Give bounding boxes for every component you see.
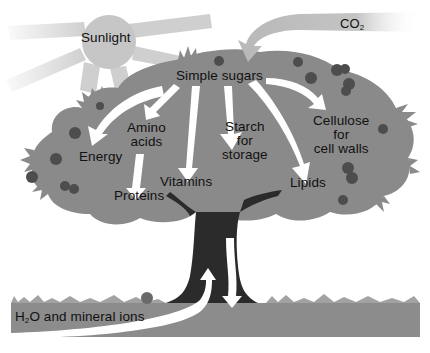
label-starch-for-storage: Starch for storage xyxy=(222,120,268,162)
label-lipids: Lipids xyxy=(290,176,326,190)
plant-nutrient-diagram: Sunlight CO2 Simple sugars Amino acids E… xyxy=(0,0,430,353)
cellulose-line-3: cell walls xyxy=(313,142,369,156)
label-co2: CO2 xyxy=(340,17,364,35)
co2-subscript: 2 xyxy=(360,23,365,32)
fallen-fruit xyxy=(141,292,153,304)
co2-text: CO xyxy=(340,16,360,31)
label-vitamins: Vitamins xyxy=(160,175,212,189)
water-rest: O and mineral ions xyxy=(29,309,144,324)
cellulose-line-2: for xyxy=(313,128,369,142)
label-proteins: Proteins xyxy=(114,189,164,203)
amino-line-2: acids xyxy=(127,135,166,149)
label-cellulose-for-cell-walls: Cellulose for cell walls xyxy=(313,114,369,156)
starch-line-2: for xyxy=(222,134,268,148)
starch-line-3: storage xyxy=(222,148,268,162)
diagram-artwork xyxy=(0,0,430,353)
label-simple-sugars: Simple sugars xyxy=(176,69,263,83)
label-amino-acids: Amino acids xyxy=(127,121,166,149)
label-sunlight: Sunlight xyxy=(81,31,131,45)
cellulose-line-1: Cellulose xyxy=(313,114,369,128)
water-h: H xyxy=(15,309,25,324)
label-energy: Energy xyxy=(79,150,122,164)
label-water-and-mineral-ions: H2O and mineral ions xyxy=(15,310,145,328)
amino-line-1: Amino xyxy=(127,121,166,135)
starch-line-1: Starch xyxy=(222,120,268,134)
